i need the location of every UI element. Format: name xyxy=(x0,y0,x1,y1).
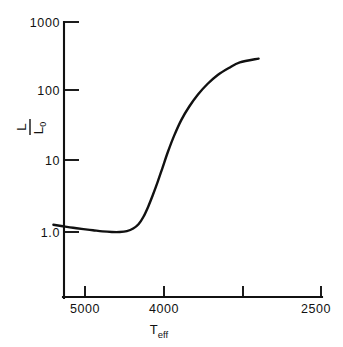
x-tick-label-2500: 2500 xyxy=(301,302,331,316)
y-tick-label-10: 10 xyxy=(45,154,60,168)
x-axis-title-base: T xyxy=(150,322,158,337)
y-tick-label-100: 100 xyxy=(37,84,60,98)
x-axis-title: Teff xyxy=(150,322,169,340)
y-axis-title: L L0 xyxy=(14,119,48,135)
y-axis-title-numerator: L xyxy=(14,123,29,131)
x-axis-title-subscript: eff xyxy=(158,329,169,340)
y-axis-title-denominator: L0 xyxy=(31,122,48,135)
x-tick-label-4000: 4000 xyxy=(149,302,179,316)
y-tick-label-1: 1.0 xyxy=(41,226,60,240)
line-chart: 1000 100 10 1.0 5000 4000 2500 Teff L L0 xyxy=(0,0,343,347)
data-curve-evolutionary-track xyxy=(53,59,258,232)
x-tick-label-5000: 5000 xyxy=(70,302,100,316)
y-tick-label-1000: 1000 xyxy=(30,16,60,30)
figure-container: 1000 100 10 1.0 5000 4000 2500 Teff L L0 xyxy=(0,0,343,347)
